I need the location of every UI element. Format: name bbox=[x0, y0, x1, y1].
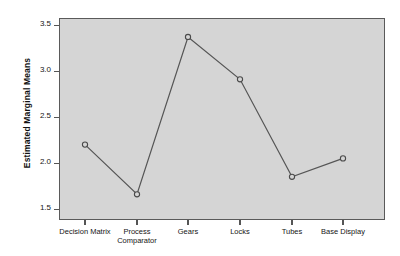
x-tick-label-line2: Comparator bbox=[117, 236, 157, 245]
y-tick-mark bbox=[54, 71, 59, 72]
y-tick-mark bbox=[54, 117, 59, 118]
y-tick-mark bbox=[54, 209, 59, 210]
y-tick-label: 2.0 bbox=[40, 157, 51, 166]
x-tick-mark bbox=[239, 220, 240, 225]
profile-plot-chart: Estimated Marginal Means 3.5 3.0 2.5 2.0… bbox=[0, 0, 400, 256]
y-tick-label: 3.0 bbox=[40, 65, 51, 74]
x-tick-label-line1: Base Display bbox=[321, 227, 365, 236]
y-tick-label: 1.5 bbox=[40, 203, 51, 212]
y-tick-mark bbox=[54, 163, 59, 164]
x-tick-label: Base Display bbox=[298, 227, 388, 236]
y-tick-label: 2.5 bbox=[40, 111, 51, 120]
y-axis-ticks: 3.5 3.0 2.5 2.0 1.5 bbox=[0, 0, 59, 256]
x-tick-mark bbox=[187, 220, 188, 225]
x-tick-mark bbox=[342, 220, 343, 225]
y-tick-label: 3.5 bbox=[40, 19, 51, 28]
plot-area bbox=[59, 18, 385, 220]
x-tick-mark bbox=[84, 220, 85, 225]
x-tick-mark bbox=[291, 220, 292, 225]
x-tick-mark bbox=[136, 220, 137, 225]
y-tick-mark bbox=[54, 25, 59, 26]
x-axis-ticks: Decision Matrix Process Comparator Gears… bbox=[0, 220, 400, 256]
